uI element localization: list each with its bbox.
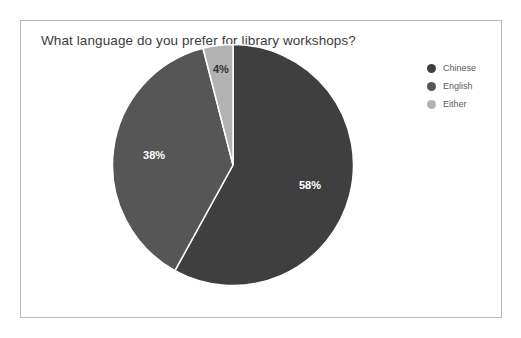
legend-swatch-icon — [427, 100, 436, 109]
legend-item-either[interactable]: Either — [427, 95, 499, 113]
legend-item-label: Chinese — [443, 64, 476, 73]
legend-item-label: English — [443, 82, 473, 91]
legend-item-english[interactable]: English — [427, 77, 499, 95]
pie-slice-label: 58% — [299, 179, 321, 191]
pie-chart-svg: 58%38%4% — [112, 44, 354, 286]
legend-item-chinese[interactable]: Chinese — [427, 59, 499, 77]
legend: Chinese English Either — [427, 59, 499, 113]
legend-item-label: Either — [443, 100, 467, 109]
chart-frame: What language do you prefer for library … — [20, 20, 502, 318]
pie-slice-label: 38% — [143, 149, 165, 161]
pie-slices — [113, 45, 354, 286]
pie-slice-label: 4% — [213, 63, 229, 75]
legend-swatch-icon — [427, 64, 436, 73]
legend-swatch-icon — [427, 82, 436, 91]
pie-chart: 58%38%4% — [112, 44, 354, 286]
